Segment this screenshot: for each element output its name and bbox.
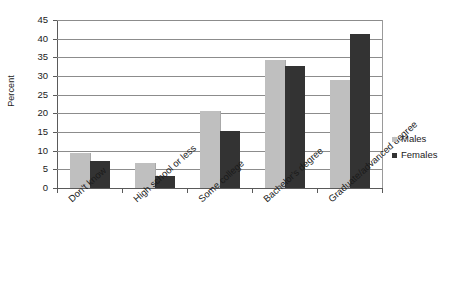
bar-chart: Percent 454035302520151050 Don't knowHig… — [0, 0, 451, 300]
x-tick-mark — [57, 189, 58, 193]
y-tick-label: 10 — [22, 146, 48, 156]
y-tick-label: 0 — [22, 183, 48, 193]
gridline — [57, 20, 382, 21]
plot-right-border — [382, 20, 383, 189]
y-tick-label: 45 — [22, 15, 48, 25]
y-tick-label: 5 — [22, 164, 48, 174]
y-tick-label: 25 — [22, 90, 48, 100]
x-tick-mark — [382, 189, 383, 193]
x-tick-mark — [317, 189, 318, 193]
y-tick-label: 30 — [22, 71, 48, 81]
gridline — [57, 57, 382, 58]
legend-item[interactable]: Males — [392, 131, 437, 147]
x-tick-mark — [252, 189, 253, 193]
y-axis-title: Percent — [6, 51, 16, 131]
y-tick-label: 20 — [22, 108, 48, 118]
males-swatch — [392, 137, 397, 142]
females-swatch — [392, 153, 397, 158]
y-tick-label: 15 — [22, 127, 48, 137]
legend-label: Males — [401, 134, 426, 144]
y-tick-label: 40 — [22, 34, 48, 44]
plot-area — [57, 20, 382, 188]
x-tick-mark — [122, 189, 123, 193]
legend-label: Females — [401, 150, 437, 160]
y-tick-label: 35 — [22, 52, 48, 62]
gridline — [57, 39, 382, 40]
bar-males — [265, 60, 286, 188]
legend-item[interactable]: Females — [392, 147, 437, 163]
bar-males — [330, 80, 351, 188]
gridline — [57, 76, 382, 77]
chart-legend: MalesFemales — [392, 131, 437, 163]
x-tick-mark — [187, 189, 188, 193]
